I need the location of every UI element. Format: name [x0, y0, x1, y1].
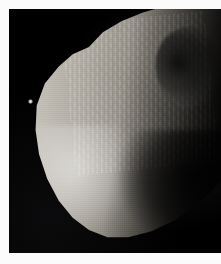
moon-container	[17, 9, 221, 247]
image-page: Heavily cratered sponge-like moon Hyperi…	[0, 0, 221, 264]
astronomy-photo: Heavily cratered sponge-like moon Hyperi…	[9, 9, 221, 253]
photo-caption: Heavily cratered sponge-like moon Hyperi…	[9, 9, 10, 10]
image-grain	[17, 9, 221, 247]
hyperion-body	[17, 9, 221, 247]
